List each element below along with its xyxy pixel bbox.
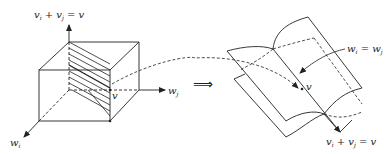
surface	[227, 17, 362, 137]
point-v-label-right: v	[306, 82, 312, 92]
point-v-right	[301, 88, 304, 91]
wi-axis-label: wi	[10, 138, 20, 149]
label-pointer-arrow	[300, 49, 345, 73]
sum-line-arrow	[324, 114, 340, 132]
diagram-figure: vi + vj = v wj wi v ⟹ wi = wj v vi + vj …	[0, 0, 385, 154]
surface-label: wi = wj	[347, 44, 383, 55]
point-v-label-left: v	[112, 91, 118, 101]
implies-arrow: ⟹	[193, 77, 213, 91]
vertical-axis-label: vi + vj = v	[34, 10, 84, 21]
sum-line-label: vi + vj = v	[326, 137, 376, 148]
point-v-left	[109, 89, 112, 92]
point-corner	[109, 120, 112, 123]
hatched-plane	[69, 42, 110, 116]
surface-hidden	[240, 38, 362, 117]
wi-axis	[24, 121, 39, 137]
wj-axis-label: wj	[168, 86, 178, 97]
